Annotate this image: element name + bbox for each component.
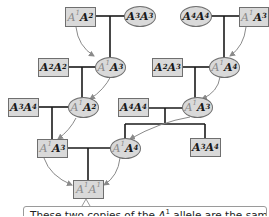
allele-letter: A: [54, 61, 63, 74]
allele-transmission-arrow: [230, 27, 246, 56]
allele-letter: A: [71, 101, 79, 114]
allele-transmission-arrow: [44, 158, 72, 185]
individual-male-g4-sibling: A3A4: [190, 138, 221, 157]
allele-letter: A: [196, 10, 205, 23]
allele-letter: A: [10, 101, 19, 114]
allele-transmission-arrow: [104, 158, 120, 185]
individual-male-g3-right: A4A4: [118, 98, 149, 117]
individual-female-g2-right: A1A4: [209, 57, 240, 78]
allele-letter: A: [212, 61, 220, 74]
pedigree-diagram: A1A2 A3A3 A4A4 A1A3 A2A2 A1A3 A2A3 A1A4 …: [0, 0, 269, 216]
allele-letter: A: [168, 61, 177, 74]
individual-male-g4: A1A3: [37, 139, 68, 158]
allele-letter: A: [197, 101, 206, 114]
individual-male-g2-left: A2A2: [38, 58, 69, 77]
allele-number: 1: [106, 59, 110, 67]
allele-transmission-arrow: [76, 27, 94, 56]
individual-female-g3-left: A1A2: [68, 97, 99, 118]
allele-number: 1: [79, 99, 83, 107]
allele-letter: A: [127, 10, 136, 23]
allele-letter: A: [140, 10, 149, 23]
allele-letter: A: [183, 10, 192, 23]
allele-letter: A: [120, 101, 129, 114]
allele-number: 1: [84, 181, 88, 189]
individual-male-g1-right: A1A3: [239, 7, 269, 27]
allele-letter: A: [98, 61, 106, 74]
individual-female-g3-right: A1A3: [182, 97, 213, 118]
allele-letter: A: [192, 141, 201, 154]
individual-male-g3-left: A3A4: [8, 98, 39, 117]
individual-female-g4: A1A4: [110, 138, 141, 159]
caption-allele: A: [158, 209, 165, 217]
allele-letter: A: [24, 101, 33, 114]
allele-letter: A: [110, 61, 119, 74]
allele-number: 1: [76, 9, 80, 17]
allele-number: 1: [96, 181, 100, 189]
allele-letter: A: [224, 61, 233, 74]
allele-letter: A: [134, 101, 143, 114]
individual-male-g1-left: A1A2: [65, 7, 96, 27]
allele-letter: A: [206, 141, 215, 154]
allele-letter: A: [254, 11, 263, 24]
allele-number: 1: [48, 140, 52, 148]
allele-letter: A: [80, 11, 89, 24]
individual-female-g1-right: A4A4: [180, 6, 212, 27]
allele-number: 1: [193, 99, 197, 107]
allele-letter: A: [52, 142, 61, 155]
allele-transmission-arrow: [130, 117, 190, 139]
allele-letter: A: [113, 142, 121, 155]
allele-transmission-arrow: [58, 118, 76, 139]
allele-letter: A: [40, 61, 49, 74]
individual-female-g1-left: A3A3: [124, 6, 156, 27]
allele-letter: A: [76, 183, 84, 196]
individual-male-g2-right: A2A3: [152, 58, 183, 77]
allele-letter: A: [241, 11, 249, 24]
allele-letter: A: [154, 61, 163, 74]
allele-transmission-arrow: [202, 77, 220, 99]
allele-number: 1: [220, 59, 224, 67]
allele-letter: A: [83, 101, 92, 114]
caption-pointer: [82, 199, 90, 206]
allele-letter: A: [185, 101, 193, 114]
allele-number: 1: [121, 140, 125, 148]
caption-box: These two copies of the A1 allele are th…: [23, 206, 267, 216]
individual-offspring-g5: A1A1: [73, 180, 104, 199]
allele-letter: A: [125, 142, 134, 155]
allele-transmission-arrow: [90, 76, 111, 99]
caption-text: These two copies of the: [30, 209, 158, 217]
allele-letter: A: [68, 11, 76, 24]
allele-number: 1: [249, 9, 253, 17]
allele-letter: A: [40, 142, 48, 155]
individual-female-g2-left: A1A3: [95, 57, 126, 78]
caption-text: allele are the same: [170, 209, 267, 217]
